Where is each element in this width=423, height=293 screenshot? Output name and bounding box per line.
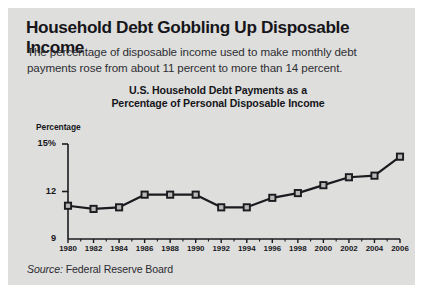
y-tick-label: 12	[22, 186, 56, 196]
data-point-marker	[397, 154, 403, 160]
data-point-marker	[371, 173, 377, 179]
data-point-marker	[269, 195, 275, 201]
y-tick-label: 9	[22, 233, 56, 243]
data-point-marker	[90, 206, 96, 212]
y-tick-label: 15%	[22, 138, 56, 148]
x-tick-label: 2006	[385, 244, 415, 253]
data-point-marker	[142, 192, 148, 198]
data-point-marker	[167, 192, 173, 198]
data-line	[68, 157, 400, 209]
source-label: Source:	[27, 263, 63, 275]
data-point-marker	[295, 190, 301, 196]
data-point-marker	[65, 203, 71, 209]
source-note: Source: Federal Reserve Board	[27, 263, 173, 275]
data-point-marker	[116, 204, 122, 210]
line-chart: 91215%1980198219841986198819901992199419…	[8, 8, 415, 285]
infographic-panel: Household Debt Gobbling Up Disposable In…	[8, 8, 415, 285]
source-value: Federal Reserve Board	[66, 263, 173, 275]
data-point-marker	[346, 174, 352, 180]
data-point-marker	[218, 204, 224, 210]
data-point-marker	[244, 204, 250, 210]
data-point-marker	[193, 192, 199, 198]
data-point-marker	[320, 182, 326, 188]
